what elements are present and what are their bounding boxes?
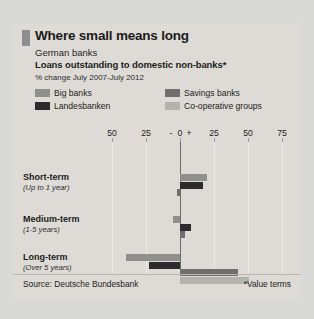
chart-bar xyxy=(149,262,180,269)
gridline xyxy=(248,140,249,273)
chart-bar xyxy=(180,182,203,189)
axis-tick-label: 25 xyxy=(209,128,219,138)
source-label: Source: Deutsche Bundesbank xyxy=(23,279,138,289)
gridline xyxy=(112,140,113,273)
group-sublabel: (Up to 1 year) xyxy=(23,183,69,192)
axis-tick xyxy=(282,138,283,142)
group-label: Medium-term xyxy=(23,214,80,224)
chart-bar xyxy=(180,174,207,181)
group-label: Long-term xyxy=(23,252,68,262)
chart-bar xyxy=(180,224,191,231)
footnote-label: *Value terms xyxy=(244,279,291,289)
legend-item: Savings banks xyxy=(165,88,240,98)
axis-plus-sign: + xyxy=(186,128,191,138)
chart-plot-area: 50250255075-+Short-term(Up to 1 year)Med… xyxy=(13,128,301,273)
axis-tick xyxy=(146,138,147,142)
legend-item: Landesbanken xyxy=(35,101,110,111)
accent-mark xyxy=(22,30,30,46)
axis-tick-label: 75 xyxy=(277,128,287,138)
legend-item: Co-operative groups xyxy=(165,101,262,111)
axis-minus-sign: - xyxy=(170,128,173,138)
axis-tick-label: 50 xyxy=(243,128,253,138)
axis-tick-label: 25 xyxy=(141,128,151,138)
chart-bar xyxy=(177,189,180,196)
axis-tick xyxy=(214,138,215,142)
zero-line xyxy=(180,140,181,273)
footer-divider xyxy=(13,274,301,275)
chart-bar xyxy=(126,254,180,261)
chart-bar xyxy=(173,216,180,223)
chart-bar xyxy=(180,277,249,284)
chart-card: Where small means long German banks Loan… xyxy=(13,22,301,299)
gridline xyxy=(214,140,215,273)
chart-bar xyxy=(180,231,185,238)
chart-units: % change July 2007-July 2012 xyxy=(35,73,144,82)
group-sublabel: (1-5 years) xyxy=(23,225,60,234)
axis-tick-label: 50 xyxy=(107,128,117,138)
chart-legend: Big banksLandesbankenSavings banksCo-ope… xyxy=(35,88,293,114)
axis-tick xyxy=(248,138,249,142)
axis-tick xyxy=(180,138,181,142)
chart-subtitle-country: German banks xyxy=(35,47,97,58)
chart-title: Where small means long xyxy=(35,28,189,43)
legend-item: Big banks xyxy=(35,88,92,98)
chart-subtitle-measure: Loans outstanding to domestic non-banks* xyxy=(35,59,226,70)
group-sublabel: (Over 5 years) xyxy=(23,263,72,272)
axis-tick xyxy=(112,138,113,142)
group-label: Short-term xyxy=(23,172,69,182)
axis-tick-label: 0 xyxy=(178,128,183,138)
gridline xyxy=(282,140,283,273)
